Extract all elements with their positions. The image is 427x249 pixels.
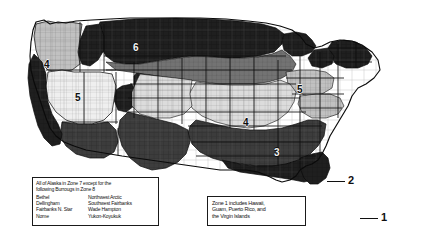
zone-1-note-line-3: the Virgin Islands [212, 213, 301, 219]
borough-bethel: Bethel [36, 194, 88, 200]
callout-zone-1-label: 1 [381, 212, 387, 223]
zone-region-5-great-basin [46, 70, 116, 124]
zone-label-4-midwest: 4 [243, 118, 249, 128]
zone-label-5-great-basin: 5 [75, 93, 81, 103]
borough-fairbanks-n-star: Fairbanks N. Star [36, 206, 88, 212]
borough-southwest-fairbanks: Southwest Fairbanks [88, 200, 155, 206]
alaska-note-line-2: following Burrougs in Zone 8 [36, 186, 155, 192]
callout-zone-1-leader-line [360, 218, 378, 219]
borough-yukon-koyukuk: Yukon-Koyukuk [88, 213, 155, 219]
borough-dellingham: Dellingham [36, 200, 88, 206]
borough-wade-hampton: Wade Hampton [88, 206, 155, 212]
zone-label-6-northern-plains: 6 [133, 43, 139, 53]
alaska-borough-list: Bethel Northwest Arctic Dellingham South… [36, 194, 155, 219]
zone-label-4-pacific-northwest: 4 [44, 60, 50, 70]
borough-northwest-arctic: Northwest Arctic [88, 194, 155, 200]
zone-1-note-box: Zone 1 includes Hawaii, Guam, Puerto Ric… [207, 196, 306, 226]
callout-zone-2-leader-line [327, 181, 345, 182]
zone-label-3-southeast: 3 [274, 148, 280, 158]
alaska-note-box: All of Alaska in Zone 7 except for the f… [32, 177, 159, 226]
borough-nome: Nome [36, 213, 88, 219]
zone-label-5-ohio-valley: 5 [297, 85, 303, 95]
callout-zone-2-label: 2 [348, 175, 354, 186]
climate-zone-map: 4 5 6 4 5 3 2 1 All of Alaska in Zone 7 … [0, 0, 427, 249]
